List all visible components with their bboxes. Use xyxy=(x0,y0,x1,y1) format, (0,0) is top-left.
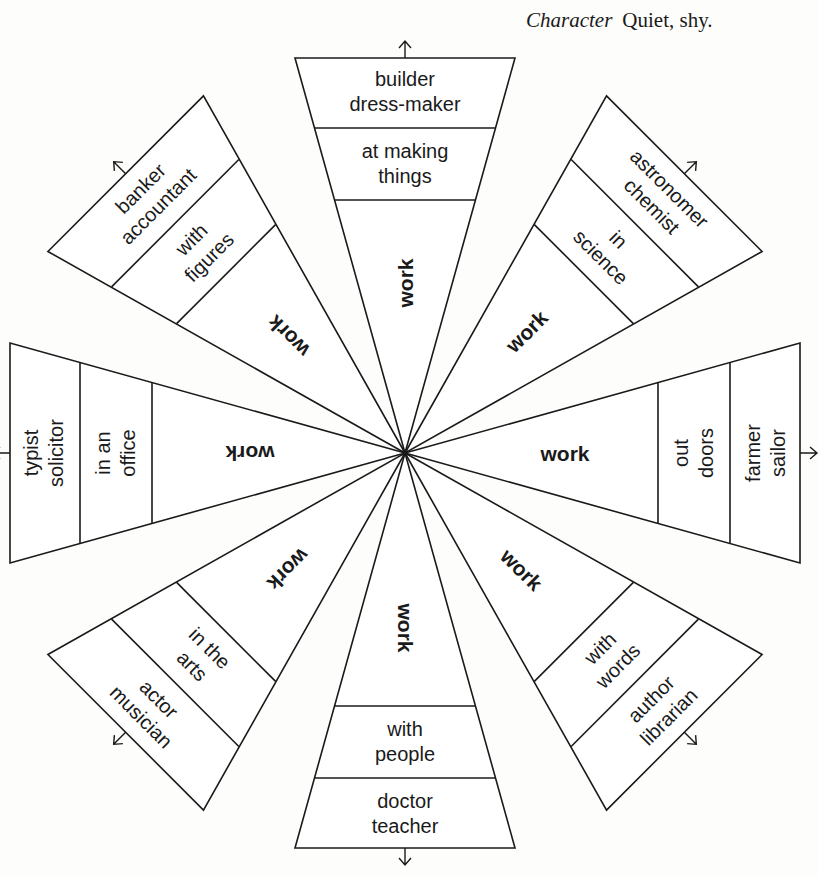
svg-text:office: office xyxy=(117,429,139,476)
svg-text:teacher: teacher xyxy=(372,815,439,837)
work-label: work xyxy=(394,602,417,652)
work-label: work xyxy=(225,442,275,465)
svg-text:builder: builder xyxy=(375,68,435,90)
svg-text:doctor: doctor xyxy=(377,790,433,812)
svg-text:typist: typist xyxy=(20,429,42,476)
svg-text:sailor: sailor xyxy=(767,429,789,477)
center-point xyxy=(403,451,408,456)
svg-text:solicitor: solicitor xyxy=(45,419,67,487)
career-wheel-diagram: work at making things builder dress-make… xyxy=(0,0,819,877)
svg-text:people: people xyxy=(375,743,435,765)
svg-text:dress-maker: dress-maker xyxy=(349,93,460,115)
svg-text:farmer: farmer xyxy=(742,424,764,482)
svg-text:things: things xyxy=(378,165,431,187)
svg-text:out: out xyxy=(670,439,692,467)
svg-text:doors: doors xyxy=(695,428,717,478)
work-label: work xyxy=(539,442,589,465)
svg-text:with: with xyxy=(386,718,423,740)
work-label: work xyxy=(394,258,417,308)
svg-text:at making: at making xyxy=(362,140,449,162)
svg-text:in an: in an xyxy=(92,431,114,474)
wheel: work at making things builder dress-make… xyxy=(0,41,817,865)
